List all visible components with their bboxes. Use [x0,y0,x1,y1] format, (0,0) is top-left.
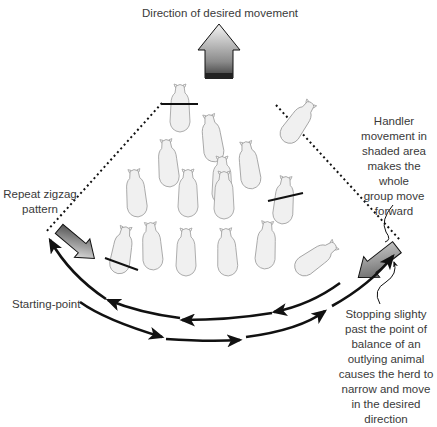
animal [199,113,225,163]
handler-movement-label: Handler movement in shaded area makes th… [352,114,436,219]
animal [176,228,196,276]
up-arrow-icon [198,24,240,79]
animal [276,97,320,148]
stopping-label: Stopping slighty past the point of balan… [336,307,436,427]
starting-point-label: Starting-point [12,297,80,312]
left-handler-arrow-icon [51,220,102,268]
right-handler-arrow-icon [350,237,405,288]
animal [236,140,262,190]
animal [216,228,238,277]
animal [170,84,190,132]
diagram-title: Direction of desired movement [120,6,320,21]
herd [108,84,341,280]
animal [178,169,198,217]
animal [291,236,342,280]
animal [124,168,148,218]
repeat-zigzag-label: Repeat zigzag pattern [2,187,78,217]
animal [140,221,163,270]
animal [156,138,180,188]
animal [254,220,277,269]
